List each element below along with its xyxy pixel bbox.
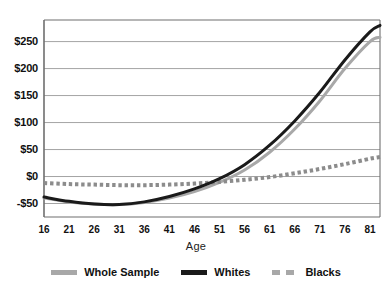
chart-legend: Whole SampleWhitesBlacks <box>0 266 392 278</box>
chart-container: -$50$0$50$100$150$200$250 16212631364146… <box>0 0 392 298</box>
series-lines <box>44 25 380 204</box>
legend-swatch-icon-2 <box>272 270 298 275</box>
legend-swatch-icon-0 <box>51 270 77 275</box>
y-tick-label-2: $50 <box>20 143 38 155</box>
x-axis-title: Age <box>0 240 392 252</box>
legend-swatch-icon-1 <box>181 270 207 275</box>
legend-item-whole-sample[interactable]: Whole Sample <box>51 266 159 278</box>
plot-area <box>0 0 392 298</box>
legend-label-1: Whites <box>214 266 250 278</box>
gridlines <box>44 42 380 204</box>
y-tick-label-4: $150 <box>14 89 38 101</box>
legend-item-whites[interactable]: Whites <box>181 266 250 278</box>
y-tick-label-5: $200 <box>14 62 38 74</box>
plot-frame <box>44 20 380 217</box>
y-tick-label-0: -$50 <box>17 197 38 209</box>
series-line-whole-sample <box>44 37 380 204</box>
legend-label-2: Blacks <box>305 266 340 278</box>
y-tick-label-3: $100 <box>14 116 38 128</box>
x-tick-label-13: 81 <box>355 224 385 235</box>
legend-label-0: Whole Sample <box>84 266 159 278</box>
y-tick-label-1: $0 <box>26 170 38 182</box>
series-line-whites <box>44 25 380 204</box>
y-tick-label-6: $250 <box>14 35 38 47</box>
legend-item-blacks[interactable]: Blacks <box>272 266 340 278</box>
